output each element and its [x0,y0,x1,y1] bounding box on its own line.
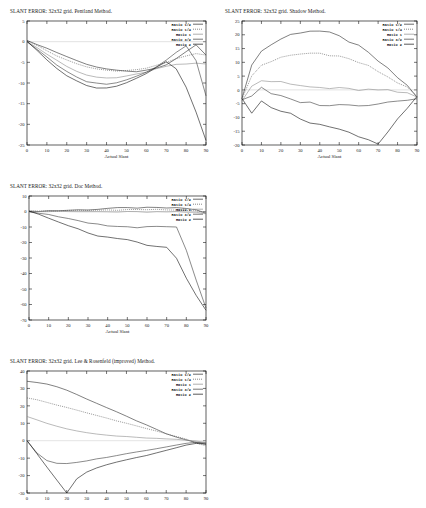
legend-label: Ratio 1 [176,208,191,212]
svg-text:-70: -70 [20,318,27,323]
svg-text:-20: -20 [18,122,25,127]
svg-text:50: 50 [125,323,130,328]
svg-text:-10: -10 [18,81,25,86]
svg-text:10: 10 [235,60,240,65]
svg-text:20: 20 [64,496,69,501]
svg-text:50: 50 [124,148,129,153]
svg-text:40: 40 [20,369,25,374]
svg-text:25: 25 [235,19,240,24]
series-line [27,416,206,442]
legend-label: Ratio 1/4 [172,28,192,32]
svg-text:80: 80 [395,148,400,153]
svg-text:20: 20 [64,148,69,153]
panel-doc: SLANT ERROR: 32x32 grid. Doc Method. 010… [10,183,210,340]
svg-text:90: 90 [204,323,209,328]
legend-label: Ratio 1/4 [172,203,192,207]
svg-text:-15: -15 [233,129,240,134]
svg-text:70: 70 [376,148,381,153]
svg-text:0: 0 [26,496,29,501]
series-line [29,212,206,309]
svg-text:5: 5 [237,74,240,79]
svg-text:-10: -10 [233,115,240,120]
svg-text:60: 60 [144,496,149,501]
svg-text:-15: -15 [18,101,25,106]
svg-text:30: 30 [84,148,89,153]
legend-label: Ratio 1 [176,383,191,387]
svg-text:-30: -30 [18,491,25,496]
legend-label: Ratio 1/2 [172,23,191,27]
plot-doc-svg: 0102030405060708090100-10-20-30-40-50-60… [10,190,210,340]
svg-text:60: 60 [356,148,361,153]
legend-label: Ratio 1/2 [172,373,191,377]
svg-text:20: 20 [20,404,25,409]
svg-text:15: 15 [235,46,240,51]
plot-lee-svg: 0102030405060708090403020100-10-20-30Rat… [10,365,210,507]
plot-pentland-svg: 010203040506070809050-5-10-15-20-25Ratio… [10,15,210,165]
svg-text:30: 30 [86,323,91,328]
svg-text:80: 80 [184,323,189,328]
legend-label: Ratio 2 [176,393,191,397]
svg-text:60: 60 [145,323,150,328]
svg-text:90: 90 [204,496,209,501]
legend-label: Ratio 1/4 [172,378,192,382]
series-line [27,441,206,493]
svg-text:-40: -40 [20,271,27,276]
svg-text:70: 70 [164,148,169,153]
svg-text:10: 10 [22,194,27,199]
series-line [242,96,417,144]
legend-label: Ratio 3/2 [172,388,191,392]
svg-text:-5: -5 [236,101,241,106]
svg-text:-20: -20 [233,143,240,148]
svg-text:10: 10 [46,323,51,328]
svg-text:-30: -30 [20,256,27,261]
svg-text:20: 20 [235,32,240,37]
svg-text:40: 40 [104,496,109,501]
svg-text:0: 0 [28,323,31,328]
svg-text:80: 80 [184,496,189,501]
svg-text:0: 0 [237,88,240,93]
svg-text:90: 90 [204,148,209,153]
svg-text:0: 0 [22,438,25,443]
series-line [27,42,206,78]
plot-doc: 0102030405060708090100-10-20-30-40-50-60… [10,190,210,340]
svg-text:0: 0 [26,148,29,153]
legend-label: Ratio 1/2 [172,198,191,202]
svg-text:30: 30 [20,386,25,391]
panel-pentland-title: SLANT ERROR: 32x32 grid. Pentland Method… [10,8,210,15]
legend-label: Ratio 2 [176,43,191,47]
legend-label: Ratio 1/4 [383,28,403,32]
series-line [27,441,206,464]
svg-text:-60: -60 [20,302,27,307]
svg-text:10: 10 [259,148,264,153]
svg-text:-10: -10 [18,456,25,461]
x-axis-label: Actual Slant [318,154,343,159]
panel-shadow-title: SLANT ERROR: 32x32 grid. Shadow Method. [225,8,421,15]
legend-label: Ratio 3/2 [172,213,191,217]
legend-label: Ratio 1/2 [383,23,402,27]
svg-text:-20: -20 [18,473,25,478]
svg-text:70: 70 [164,323,169,328]
plot-lee: 0102030405060708090403020100-10-20-30Rat… [10,365,210,507]
svg-text:0: 0 [22,39,25,44]
svg-text:50: 50 [337,148,342,153]
legend-label: Ratio 3/2 [383,38,402,42]
panel-lee: SLANT ERROR: 32x32 grid. Lee & Rosenfeld… [10,358,210,507]
svg-text:80: 80 [184,148,189,153]
panel-lee-title: SLANT ERROR: 32x32 grid. Lee & Rosenfeld… [10,358,210,365]
panel-doc-title: SLANT ERROR: 32x32 grid. Doc Method. [10,183,210,190]
svg-text:10: 10 [45,148,50,153]
svg-text:-10: -10 [20,225,27,230]
svg-text:5: 5 [22,19,25,24]
svg-text:-25: -25 [18,143,25,148]
svg-text:50: 50 [124,496,129,501]
legend-label: Ratio 2 [387,43,402,47]
legend-label: Ratio 2 [176,218,191,222]
svg-text:20: 20 [66,323,71,328]
x-axis-label: Actual Slant [105,154,130,159]
svg-text:30: 30 [84,496,89,501]
legend-label: Ratio 1 [387,33,402,37]
panel-shadow: SLANT ERROR: 32x32 grid. Shadow Method. … [225,8,421,165]
svg-text:70: 70 [164,496,169,501]
plot-shadow-svg: 01020304050607080902520151050-5-10-15-20… [225,15,421,165]
x-axis-label: Actual Slant [106,329,131,334]
